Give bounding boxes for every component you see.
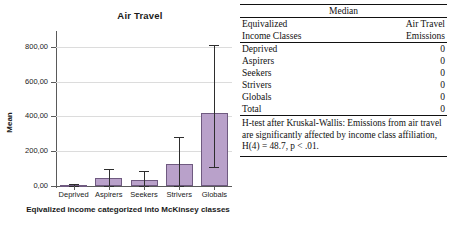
y-tick-mark: [51, 151, 56, 152]
error-cap-upper: [104, 169, 114, 170]
plot-area: [56, 33, 232, 186]
col-header-1-line1: Equivalized: [240, 18, 363, 31]
median-table: Median Equivalized Air Travel Income Cla…: [240, 4, 447, 115]
error-bar-aspirers: [109, 169, 110, 186]
bar-chart-panel: Air Travel Mean 0,00200,00400,00600,0080…: [0, 0, 236, 248]
gridline: [56, 47, 232, 48]
col-header-1-line2: Income Classes: [240, 30, 363, 43]
row-label: Seekers: [240, 67, 363, 79]
y-tick-mark: [51, 116, 56, 117]
row-value: 0: [363, 43, 447, 56]
row-label: Globals: [240, 91, 363, 103]
row-label: Aspirers: [240, 55, 363, 67]
row-value: 0: [363, 55, 447, 67]
table-row: Total0: [240, 103, 447, 115]
table-row: Aspirers0: [240, 55, 447, 67]
table-row: Globals0: [240, 91, 447, 103]
error-cap-upper: [139, 171, 149, 172]
error-cap-upper: [209, 45, 219, 46]
row-value: 0: [363, 67, 447, 79]
y-tick-mark: [51, 82, 56, 83]
x-tick-label: Globals: [192, 190, 236, 199]
table-row: Seekers0: [240, 67, 447, 79]
row-label: Total: [240, 103, 363, 115]
table-row: Strivers0: [240, 79, 447, 91]
y-tick-label: 400,00: [2, 111, 48, 120]
chart-title: Air Travel: [60, 10, 220, 21]
error-cap-lower: [209, 167, 219, 168]
error-bar-globals: [214, 45, 215, 167]
median-table-panel: Median Equivalized Air Travel Income Cla…: [240, 4, 447, 157]
y-axis-label: Mean: [5, 101, 14, 145]
error-cap-upper: [174, 137, 184, 138]
row-value: 0: [363, 91, 447, 103]
error-bar-strivers: [179, 137, 180, 186]
col-header-2-line1: Air Travel: [363, 18, 447, 31]
y-tick-mark: [51, 186, 56, 187]
y-tick-mark: [51, 47, 56, 48]
row-label: Deprived: [240, 43, 363, 56]
table-row: Deprived0: [240, 43, 447, 56]
x-axis-label: Eqivalized income categorized into McKin…: [20, 205, 236, 214]
table-note-wrap: H-test after Kruskal-Wallis: Emissions f…: [240, 115, 447, 157]
row-value: 0: [363, 103, 447, 115]
statistical-note: H-test after Kruskal-Wallis: Emissions f…: [240, 116, 447, 156]
y-tick-label: 0,00: [2, 181, 48, 190]
y-tick-label: 800,00: [2, 42, 48, 51]
row-value: 0: [363, 79, 447, 91]
row-label: Strivers: [240, 79, 363, 91]
gridline: [56, 82, 232, 83]
table-body: Deprived0Aspirers0Seekers0Strivers0Globa…: [240, 43, 447, 116]
figure-root: Air Travel Mean 0,00200,00400,00600,0080…: [0, 0, 451, 248]
table-caption: Median: [240, 5, 447, 18]
y-tick-label: 200,00: [2, 146, 48, 155]
error-bar-seekers: [144, 171, 145, 186]
y-tick-label: 600,00: [2, 77, 48, 86]
col-header-2-line2: Emissions: [363, 30, 447, 43]
